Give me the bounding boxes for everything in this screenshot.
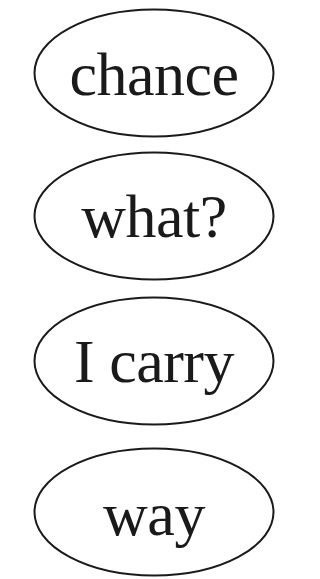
word-label: chance bbox=[33, 8, 275, 138]
word-ellipse-what: what? bbox=[33, 151, 275, 281]
word-label: way bbox=[33, 447, 275, 577]
word-ellipse-i-carry: I carry bbox=[33, 296, 275, 426]
word-label: I carry bbox=[33, 296, 275, 426]
word-label: what? bbox=[33, 151, 275, 281]
word-ellipse-way: way bbox=[33, 447, 275, 577]
word-ellipse-chance: chance bbox=[33, 8, 275, 138]
